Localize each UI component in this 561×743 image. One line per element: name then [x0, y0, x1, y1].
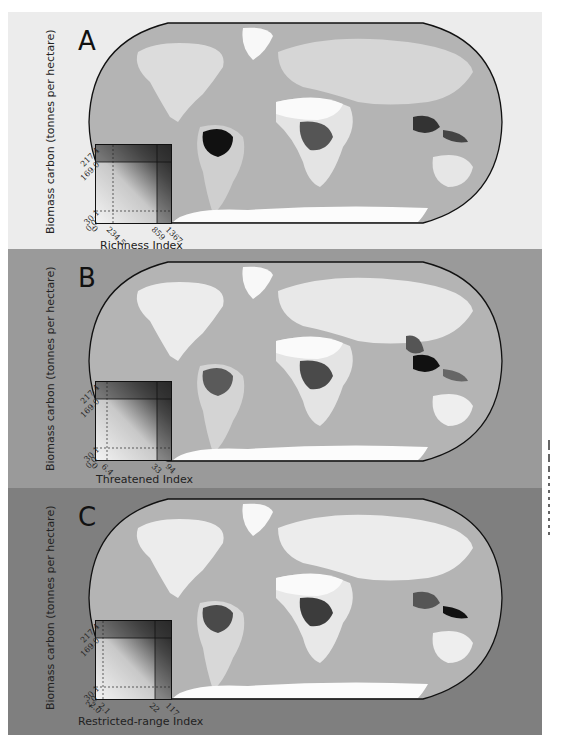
- x-tick: 22: [148, 701, 162, 715]
- x-axis-label: Threatened Index: [96, 473, 193, 486]
- page-edge-marks: [548, 440, 552, 620]
- legend-heatmap: [95, 620, 172, 700]
- y-axis-label: Biomass carbon (tonnes per hectare): [44, 510, 58, 710]
- y-axis-label: Biomass carbon (tonnes per hectare): [44, 34, 58, 234]
- panel-a: A Biomass carbon (tonnes per hectar: [8, 12, 542, 249]
- panel-b: B Biomass carbon (tonnes per hectare): [8, 249, 542, 488]
- panel-c: C Biomass carbon (tonnes per hectare): [8, 488, 542, 735]
- legend-heatmap: [95, 144, 172, 224]
- x-axis-label: Restricted-range Index: [78, 715, 203, 728]
- y-axis-label: Biomass carbon (tonnes per hectare): [44, 271, 58, 471]
- legend-heatmap: [95, 381, 172, 461]
